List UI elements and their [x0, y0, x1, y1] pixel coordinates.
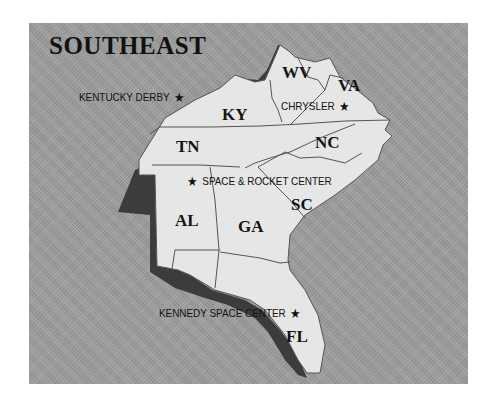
- star-icon: ★: [339, 100, 350, 113]
- state-label-ky[interactable]: KY: [222, 106, 248, 123]
- landmark-kennedy-space-center[interactable]: KENNEDY SPACE CENTER ★: [159, 307, 301, 320]
- landmark-label: SPACE & ROCKET CENTER: [202, 176, 331, 187]
- state-label-ga[interactable]: GA: [238, 218, 264, 235]
- star-icon: ★: [290, 307, 301, 320]
- landmark-space-rocket-center[interactable]: ★ SPACE & ROCKET CENTER: [187, 175, 332, 188]
- state-label-va[interactable]: VA: [338, 77, 360, 94]
- southeast-map: [0, 0, 489, 405]
- state-label-nc[interactable]: NC: [315, 134, 340, 151]
- landmark-label: KENTUCKY DERBY: [79, 92, 170, 103]
- landmark-label: CHRYSLER: [281, 101, 335, 112]
- state-label-al[interactable]: AL: [175, 212, 199, 229]
- state-label-tn[interactable]: TN: [176, 138, 200, 155]
- state-label-sc[interactable]: SC: [291, 196, 313, 213]
- map-title: SOUTHEAST: [49, 33, 206, 58]
- landmark-kentucky-derby[interactable]: KENTUCKY DERBY ★: [79, 91, 185, 104]
- landmark-chrysler[interactable]: CHRYSLER ★: [281, 100, 350, 113]
- star-icon: ★: [187, 175, 198, 188]
- landmark-label: KENNEDY SPACE CENTER: [159, 308, 286, 319]
- star-icon: ★: [174, 91, 185, 104]
- state-label-fl[interactable]: FL: [286, 328, 308, 345]
- state-label-wv[interactable]: WV: [282, 64, 311, 81]
